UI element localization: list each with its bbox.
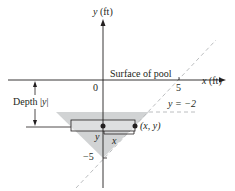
point-on-y-axis [101,124,106,129]
point-x-y [133,124,138,129]
origin-label: 0 [93,82,98,93]
depth-arrow-down-icon [33,120,37,126]
line-label-y-minus-2: y = −2 [167,98,196,109]
depth-arrow-up-icon [33,81,37,87]
y-axis-label: y (ft) [92,6,113,18]
depth-label: Depth |y| [13,96,48,107]
surface-label: Surface of pool [110,68,172,79]
y-tick-label-minus-5: −5 [83,151,94,162]
strip-y-label: y [94,131,100,142]
pool-triangle [56,112,149,158]
x-tick-label-5: 5 [176,82,181,93]
point-label-x-y: (x, y) [140,120,161,132]
strip-x-label: x [111,135,117,146]
pool-cross-section-diagram: y (ft) x (ft) 0 5 −5 Surface of pool Dep… [0,0,235,191]
x-axis-label: x (ft) [201,75,222,87]
y-axis-arrow-icon [101,19,106,26]
